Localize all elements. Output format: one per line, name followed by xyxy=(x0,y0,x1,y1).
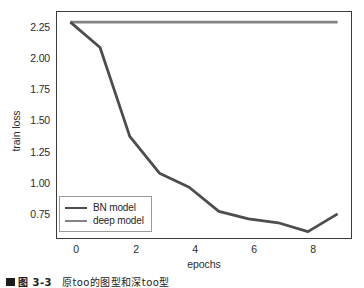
y-axis-label: train loss xyxy=(10,91,22,171)
legend-swatch-bn-model xyxy=(65,207,87,209)
x-tick-label-6: 6 xyxy=(239,243,269,255)
legend-swatch-deep-model xyxy=(65,220,87,222)
y-tick-label-0-75: 0.75 xyxy=(14,208,50,220)
x-tick-label-8: 8 xyxy=(298,243,328,255)
chart-legend: BN model deep model xyxy=(59,196,152,232)
y-tick-label-2-25: 2.25 xyxy=(14,21,50,33)
caption-marker-icon xyxy=(6,278,15,286)
legend-entry-deep-model: deep model xyxy=(65,214,144,227)
x-axis-label: epochs xyxy=(56,258,352,270)
figure-container: 2.25 2.00 1.75 1.50 1.25 1.00 0.75 train… xyxy=(0,0,364,288)
y-tick-label-1-00: 1.00 xyxy=(14,177,50,189)
x-tick-label-0: 0 xyxy=(61,243,91,255)
legend-entry-bn-model: BN model xyxy=(65,201,144,214)
y-tick-label-2-00: 2.00 xyxy=(14,52,50,64)
figure-caption-strip: 图 3-3 原too的图型和深too型 xyxy=(0,277,364,288)
figure-caption: 图 3-3 原too的图型和深too型 xyxy=(6,277,170,288)
x-tick-label-4: 4 xyxy=(180,243,210,255)
legend-label-bn-model: BN model xyxy=(93,202,136,213)
caption-text: 原too的图型和深too型 xyxy=(62,277,170,288)
legend-label-deep-model: deep model xyxy=(93,215,144,226)
x-tick-label-2: 2 xyxy=(121,243,151,255)
caption-figure-number: 图 3-3 xyxy=(18,277,52,288)
